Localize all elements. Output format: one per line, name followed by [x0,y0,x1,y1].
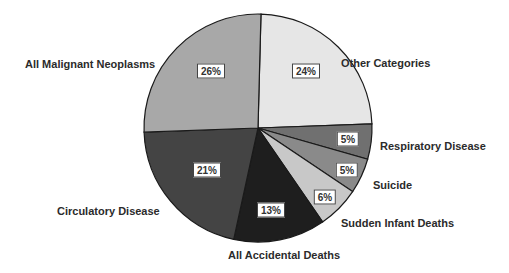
percent-label: 26% [197,64,225,79]
percent-label: 13% [257,203,285,218]
category-label: Sudden Infant Deaths [341,217,454,229]
percent-label: 24% [292,64,320,79]
category-label: Respiratory Disease [380,140,486,152]
percent-label: 5% [336,163,358,178]
category-label: Circulatory Disease [57,205,160,217]
category-label: All Accidental Deaths [228,249,340,261]
percent-label: 6% [314,190,336,205]
percent-label: 21% [193,163,221,178]
category-label: Suicide [373,179,412,191]
pie-svg [0,0,509,273]
category-label: Other Categories [341,57,430,69]
percent-label: 5% [337,132,359,147]
category-label: All Malignant Neoplasms [25,58,155,70]
pie-chart: Other Categories24%Respiratory Disease5%… [0,0,509,273]
